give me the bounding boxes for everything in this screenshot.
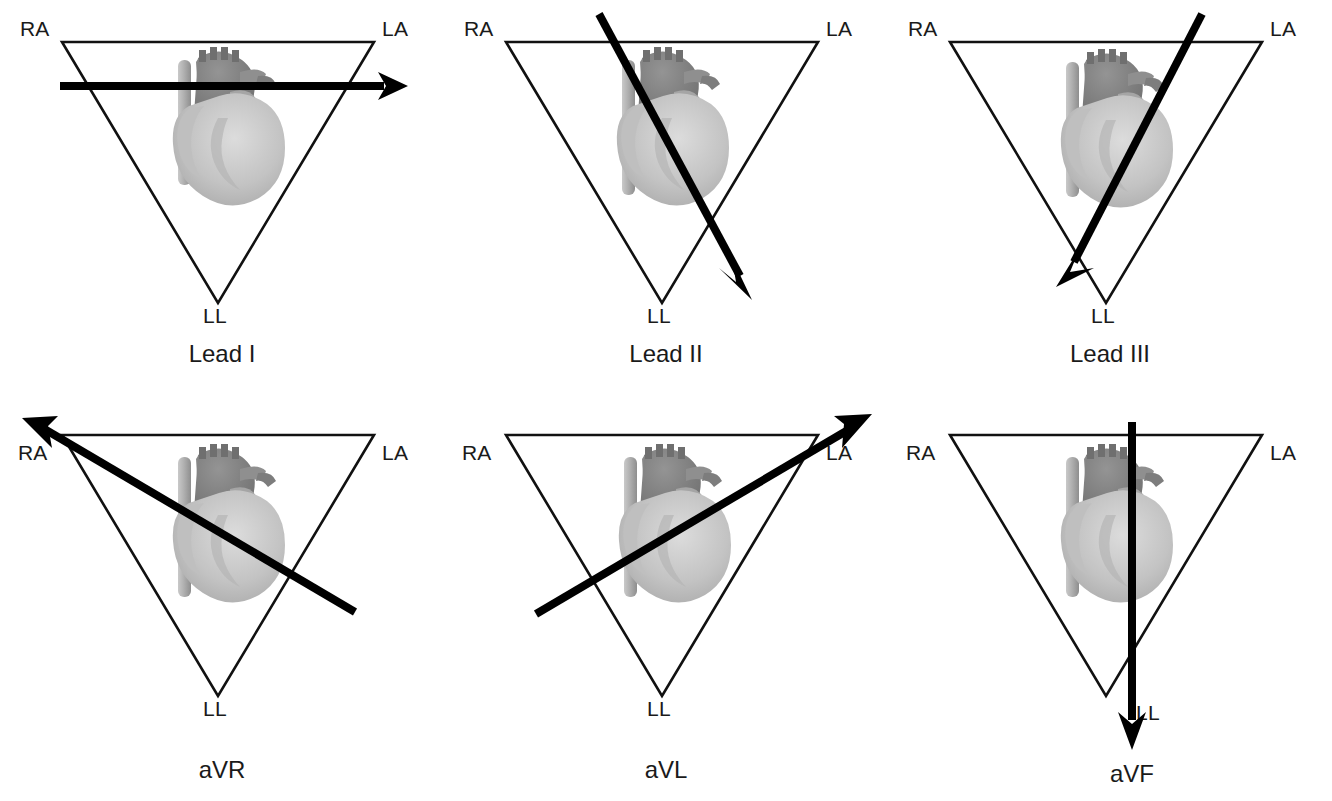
einthoven-triangle-figure: RA LA LL Lead I <box>0 0 1332 801</box>
panel-grid: RA LA LL Lead I <box>0 0 1332 801</box>
panel-avl[interactable]: RA LA LL aVL <box>444 390 888 801</box>
panel-caption: aVR <box>199 756 246 783</box>
vertex-label-ll: LL <box>647 304 671 327</box>
vertex-label-ll: LL <box>1091 304 1115 327</box>
vertex-label-ra: RA <box>906 441 936 464</box>
vertex-label-ll: LL <box>203 697 227 720</box>
panel-lead-iii[interactable]: RA LA LL Lead III <box>888 0 1332 390</box>
vertex-label-la: LA <box>826 17 852 40</box>
vertex-label-la: LA <box>382 17 408 40</box>
heart-illustration <box>173 47 285 206</box>
vertex-label-ll: LL <box>647 697 671 720</box>
panel-avr[interactable]: RA LA LL aVR <box>0 390 444 801</box>
vertex-label-ll: LL <box>203 304 227 327</box>
vertex-label-ra: RA <box>20 17 50 40</box>
vertex-label-la: LA <box>1270 17 1296 40</box>
panel-caption: Lead II <box>629 340 702 367</box>
heart-illustration <box>173 444 285 603</box>
heart-illustration <box>1061 444 1173 603</box>
panel-lead-ii[interactable]: RA LA LL Lead II <box>444 0 888 390</box>
panel-caption: Lead III <box>1070 340 1150 367</box>
vertex-label-ra: RA <box>462 441 492 464</box>
heart-illustration <box>619 444 731 603</box>
panel-caption: aVL <box>645 756 688 783</box>
vertex-label-ra: RA <box>18 441 48 464</box>
panel-avf[interactable]: RA LA LL aVF <box>888 390 1332 801</box>
vertex-label-la: LA <box>382 441 408 464</box>
vertex-label-ra: RA <box>908 17 938 40</box>
panel-lead-i[interactable]: RA LA LL Lead I <box>0 0 444 390</box>
vertex-label-la: LA <box>1270 441 1296 464</box>
vertex-label-ra: RA <box>464 17 494 40</box>
panel-caption: Lead I <box>189 340 256 367</box>
panel-caption: aVF <box>1110 760 1154 787</box>
